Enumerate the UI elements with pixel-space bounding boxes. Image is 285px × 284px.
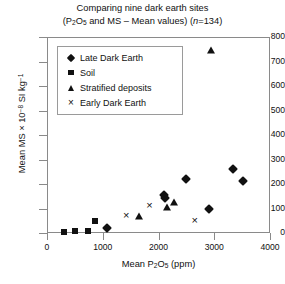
- legend-item-square: Soil: [62, 65, 178, 80]
- x-tick: [159, 233, 160, 240]
- y-tick: [39, 209, 47, 210]
- y-tick-label: 700: [261, 56, 285, 66]
- x-tick-label: 1000: [83, 242, 123, 252]
- data-point-cross: [190, 215, 199, 224]
- y-tick-label: 800: [261, 31, 285, 41]
- legend-marker-cross-icon: ×: [62, 98, 80, 108]
- y-tick: [39, 135, 47, 136]
- legend-marker-square-icon: [62, 70, 80, 76]
- y-tick: [39, 233, 47, 234]
- chart-title-line1: Comparing nine dark earth sites: [77, 3, 209, 13]
- legend-marker-triangle-icon: [62, 85, 80, 91]
- marker-shape: [68, 70, 74, 76]
- data-point-square: [85, 228, 91, 234]
- y-axis-title: Mean MS × 10−8 SI kg−1: [17, 38, 28, 208]
- y-tick-label: 200: [261, 178, 285, 188]
- y-tick-label: 400: [261, 129, 285, 139]
- y-tick: [39, 86, 47, 87]
- data-point-square: [92, 218, 98, 224]
- y-tick: [39, 184, 47, 185]
- scatter-chart: Comparing nine dark earth sites (P2O5 an…: [0, 0, 285, 284]
- legend-marker-diamond-icon: [62, 55, 80, 61]
- y-tick-label: 100: [261, 203, 285, 213]
- legend-item-triangle: Stratified deposits: [62, 80, 178, 95]
- y-tick: [39, 160, 47, 161]
- x-tick-label: 3000: [194, 242, 234, 252]
- data-point-square: [61, 229, 67, 235]
- x-tick-label: 0: [27, 242, 67, 252]
- data-point-triangle: [135, 212, 143, 219]
- ylabel-sup-minus8: −8: [17, 105, 24, 113]
- data-point-square: [72, 228, 78, 234]
- x-tick: [214, 233, 215, 240]
- y-tick-label: 500: [261, 105, 285, 115]
- legend-item-cross: ×Early Dark Earth: [62, 95, 178, 110]
- x-tick-label: 2000: [139, 242, 179, 252]
- x-tick-label: 4000: [250, 242, 285, 252]
- legend-label: Soil: [80, 68, 95, 78]
- data-point-triangle: [170, 198, 178, 205]
- legend-item-diamond: Late Dark Earth: [62, 50, 178, 65]
- legend-label: Late Dark Earth: [80, 53, 143, 63]
- ylabel-sup-minus1: −1: [17, 74, 24, 82]
- y-tick: [39, 37, 47, 38]
- x-tick: [103, 233, 104, 240]
- y-tick: [39, 62, 47, 63]
- chart-title: Comparing nine dark earth sites (P2O5 an…: [0, 2, 285, 30]
- x-axis-title: Mean P2O5 (ppm): [47, 259, 270, 269]
- chart-subtitle: (P2O5 and MS – Mean values) (n=134): [0, 15, 285, 30]
- marker-shape: ×: [68, 98, 74, 108]
- legend-label: Early Dark Earth: [80, 98, 146, 108]
- y-tick-label: 600: [261, 80, 285, 90]
- y-tick: [39, 111, 47, 112]
- x-tick: [47, 233, 48, 240]
- data-point-cross: [145, 201, 154, 210]
- x-tick: [270, 233, 271, 240]
- marker-shape: [68, 85, 74, 91]
- data-point-triangle: [207, 47, 215, 54]
- y-tick-label: 300: [261, 154, 285, 164]
- data-point-cross: [122, 211, 131, 220]
- marker-shape: [67, 53, 75, 61]
- legend-label: Stratified deposits: [80, 83, 152, 93]
- y-tick-label: 0: [261, 227, 285, 237]
- chart-legend: Late Dark EarthSoilStratified deposits×E…: [57, 46, 183, 115]
